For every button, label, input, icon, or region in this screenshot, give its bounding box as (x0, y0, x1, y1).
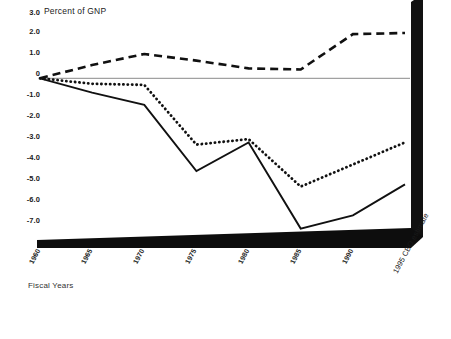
y-tick-label: -4.0 (27, 153, 40, 162)
x-tick-label: 1980 (236, 248, 250, 265)
y-tick-label: 1.0 (29, 48, 40, 57)
y-tick-label: -3.0 (27, 132, 40, 141)
y-tick-label: -5.0 (27, 174, 40, 183)
y-tick-label: -7.0 (27, 216, 40, 225)
x-tick-label: 1970 (132, 248, 146, 265)
x-tick-label: 1985 (289, 248, 303, 265)
y-tick-label: -6.0 (27, 195, 40, 204)
x-tick-label: 1990 (341, 248, 355, 265)
floor-slab (37, 228, 423, 248)
right-wall (411, 0, 423, 237)
plot-area (40, 8, 410, 233)
y-tick-label: -2.0 (27, 111, 40, 120)
y-tick-label: -1.0 (27, 90, 40, 99)
x-tick-label: 1975 (184, 248, 198, 265)
y-tick-label: 3.0 (29, 8, 40, 17)
chart-svg (40, 8, 410, 243)
x-axis-title: Fiscal Years (28, 281, 74, 290)
chart-figure: Percent of GNP 3.0 2.0 1.0 0 -1.0 -2.0 -… (0, 0, 451, 339)
dotted-series-line (40, 78, 405, 186)
dashed-series-line (40, 33, 405, 78)
solid-series-line (40, 78, 405, 228)
y-tick-label: 2.0 (29, 27, 40, 36)
x-tick-label: 1965 (80, 248, 94, 265)
